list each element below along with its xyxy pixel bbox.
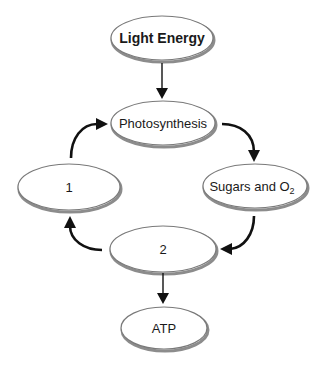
node-label: ATP <box>152 321 176 336</box>
node-2: 2 <box>110 226 217 274</box>
photosynthesis-cycle-diagram: Light Energy Photosynthesis Sugars and O… <box>0 0 319 372</box>
node-label: 2 <box>159 242 166 257</box>
node-label: Sugars and O <box>209 179 289 194</box>
node-label: Photosynthesis <box>119 116 208 131</box>
svg-text:Sugars and O2: Sugars and O2 <box>209 179 294 196</box>
node-light-energy: Light Energy <box>111 16 214 62</box>
node-photosynthesis: Photosynthesis <box>111 101 216 147</box>
arrow-sugars-to-2 <box>220 216 254 255</box>
arrow-2-to-1 <box>64 216 102 250</box>
arrow-light-to-photosynthesis <box>156 63 168 99</box>
node-atp: ATP <box>121 307 208 351</box>
node-label: Light Energy <box>119 30 205 46</box>
arrow-1-to-photosynthesis <box>71 118 108 158</box>
node-1: 1 <box>18 164 121 212</box>
node-label: 1 <box>65 180 72 195</box>
arrow-photosynthesis-to-sugars <box>222 124 260 162</box>
node-label-subscript: 2 <box>290 186 295 196</box>
node-sugars-and-o2: Sugars and O2 <box>203 164 308 210</box>
arrow-2-to-atp <box>157 273 169 304</box>
